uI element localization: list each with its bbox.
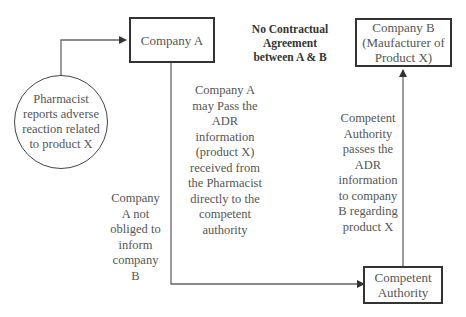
a-not-obliged-annotation: Company A not obliged to inform company … — [103, 191, 168, 284]
edge-pharmacist-to-company-a — [61, 40, 126, 76]
pharmacist-node: Pharmacist reports adverse reaction rela… — [14, 75, 108, 169]
ca-passes-annotation: Competent Authority passes the ADR infor… — [335, 111, 401, 235]
competent-authority-node: Competent Authority — [363, 266, 443, 304]
diagram-canvas: Pharmacist reports adverse reaction rela… — [0, 0, 466, 317]
company-a-node: Company A — [129, 17, 215, 63]
a-may-pass-annotation: Company A may Pass the ADR information (… — [175, 83, 275, 238]
no-contract-annotation: No Contractual Agreement between A & B — [248, 22, 332, 64]
company-b-node: Company B (Maufacturer of Product X) — [355, 18, 452, 67]
